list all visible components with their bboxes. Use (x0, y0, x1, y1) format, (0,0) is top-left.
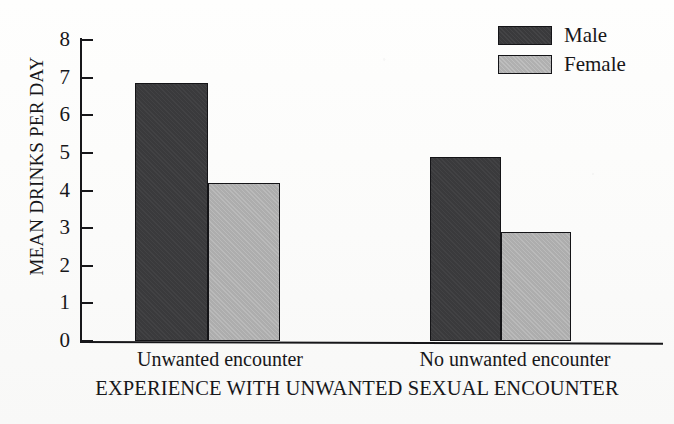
y-tick-label-6: 6 (46, 104, 70, 125)
y-tick-label-5: 5 (46, 142, 70, 163)
bar-chart-figure: 012345678 MEAN DRINKS PER DAY Unwanted e… (0, 0, 674, 424)
y-axis-title: MEAN DRINKS PER DAY (26, 16, 48, 316)
legend-item-male: Male (498, 22, 626, 48)
y-tick-label-7: 7 (46, 67, 70, 88)
x-axis-line (80, 341, 663, 345)
legend-label-female: Female (564, 54, 626, 75)
legend-label-male: Male (564, 25, 607, 46)
y-tick-label-3: 3 (46, 217, 70, 238)
y-tick-label-4: 4 (46, 180, 70, 201)
x-category-label-1: Unwanted encounter (95, 348, 345, 371)
plot-area (80, 40, 640, 341)
bar-male-unwanted-encounter (135, 83, 208, 341)
y-tick-label-1: 1 (46, 292, 70, 313)
legend-swatch-male-icon (498, 26, 552, 45)
y-tick-label-8: 8 (46, 29, 70, 50)
chart-legend: Male Female (498, 22, 626, 80)
bar-female-unwanted-encounter (208, 183, 280, 341)
y-tick-label-0: 0 (46, 330, 70, 351)
x-axis-title: EXPERIENCE WITH UNWANTED SEXUAL ENCOUNTE… (0, 377, 674, 400)
bar-male-no-unwanted-encounter (430, 157, 501, 341)
x-category-label-2: No unwanted encounter (370, 348, 660, 371)
legend-item-female: Female (498, 51, 626, 77)
y-tick-label-2: 2 (46, 255, 70, 276)
legend-swatch-female-icon (498, 55, 552, 74)
bar-female-no-unwanted-encounter (501, 232, 571, 341)
